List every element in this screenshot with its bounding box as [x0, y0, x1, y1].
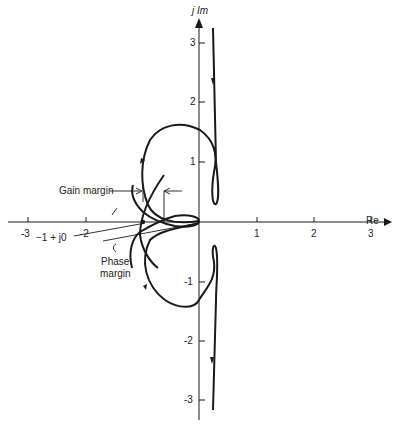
phase-margin-label-line2: margin [100, 269, 131, 279]
phase-margin-label-line1: Phase [101, 257, 129, 267]
x-tick-label: 1 [254, 229, 260, 239]
nyquist-curve [130, 28, 218, 410]
critical-point-label: −1 + j0 [36, 233, 67, 243]
real-axis-arrow-icon [384, 218, 392, 226]
y-tick-label: -1 [184, 277, 193, 287]
y-tick-label: 2 [190, 97, 196, 107]
x-tick-label: 3 [368, 229, 374, 239]
gain-margin-label: Gain margin [59, 186, 113, 196]
x-tick-label: -3 [21, 229, 30, 239]
imag-axis-arrow-icon [195, 18, 203, 28]
y-tick-label: -2 [184, 336, 193, 346]
direction-arrow-icon [143, 284, 147, 290]
y-tick-label: -3 [184, 395, 193, 405]
plot-canvas [0, 0, 410, 429]
y-tick-label: 1 [190, 157, 196, 167]
nyquist-diagram: Re j Im -3 -2 1 2 3 3 2 1 -1 -2 -3 Gain … [0, 0, 410, 429]
imag-axis-label: j Im [192, 6, 208, 16]
x-tick-label: -2 [80, 229, 89, 239]
real-axis-label: Re [366, 216, 379, 226]
y-tick-label: 3 [190, 38, 196, 48]
x-tick-label: 2 [311, 229, 317, 239]
critical-point-marker [141, 220, 145, 224]
